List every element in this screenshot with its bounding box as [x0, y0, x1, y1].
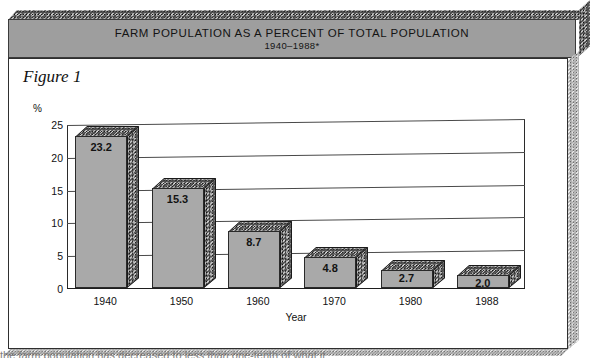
plot-area: 23.215.38.74.82.72.0 1940195019601970198… [67, 125, 525, 289]
figure-label: Figure 1 [23, 67, 81, 87]
bar-front-face: 4.8 [304, 257, 356, 288]
chart-title: FARM POPULATION AS A PERCENT OF TOTAL PO… [115, 26, 469, 40]
chart-subtitle: 1940–1988* [264, 40, 319, 52]
title-banner: FARM POPULATION AS A PERCENT OF TOTAL PO… [8, 10, 580, 56]
bar-value-label: 2.7 [399, 272, 414, 284]
y-tick-label: 25 [43, 119, 63, 131]
bar-front-face: 15.3 [152, 188, 204, 288]
plot-right-edge [524, 119, 525, 289]
bar-side-face [127, 126, 139, 288]
bar[interactable]: 4.8 [304, 247, 368, 288]
bar-value-label: 23.2 [90, 141, 111, 153]
page-bleed-text: the farm population has decreased to les… [0, 349, 602, 358]
x-tick-label: 1988 [449, 295, 525, 307]
y-tick-label: 0 [43, 283, 63, 295]
bar-front-face: 2.7 [381, 270, 433, 288]
x-tick-label: 1970 [296, 295, 372, 307]
bar-side-face [204, 178, 216, 288]
bar-value-label: 4.8 [323, 262, 338, 274]
x-axis-title: Year [266, 311, 326, 323]
y-axis-ticks: 0510152025 [39, 125, 63, 289]
y-tick-label: 15 [43, 185, 63, 197]
banner-side-bevel [579, 0, 590, 56]
plot-baseline [67, 288, 525, 289]
y-tick-label: 5 [43, 250, 63, 262]
bar[interactable]: 15.3 [152, 178, 216, 288]
x-tick-label: 1940 [67, 295, 143, 307]
bar[interactable]: 8.7 [228, 221, 292, 288]
bar[interactable]: 2.0 [457, 265, 521, 288]
bar-value-label: 8.7 [246, 236, 261, 248]
x-tick-label: 1960 [220, 295, 296, 307]
banner-face: FARM POPULATION AS A PERCENT OF TOTAL PO… [8, 19, 576, 58]
plot-left-axis [67, 125, 68, 289]
y-tick-label: 20 [43, 152, 63, 164]
y-tick-label: 10 [43, 217, 63, 229]
bar[interactable]: 2.7 [381, 260, 445, 288]
bar[interactable]: 23.2 [75, 126, 139, 288]
y-axis-label: % [33, 103, 42, 114]
bar-front-face: 23.2 [75, 136, 127, 288]
bar-value-label: 2.0 [475, 277, 490, 289]
bar-front-face: 8.7 [228, 231, 280, 288]
bar-side-face [280, 221, 292, 288]
x-tick-label: 1980 [372, 295, 448, 307]
bar-front-face: 2.0 [457, 275, 509, 288]
bar-value-label: 15.3 [167, 193, 188, 205]
figure-box: Figure 1 % 0510152025 23.215.38.74.82.72… [8, 58, 568, 349]
x-tick-label: 1950 [143, 295, 219, 307]
